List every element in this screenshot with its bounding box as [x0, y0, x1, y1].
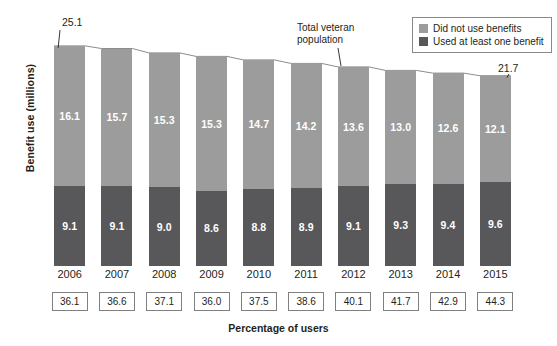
legend-label: Used at least one benefit — [433, 36, 544, 47]
x-tick-label-2014: 2014 — [428, 268, 468, 280]
bar-2010[interactable]: 14.78.8 — [243, 60, 274, 266]
bar-2014[interactable]: 12.69.4 — [433, 73, 464, 266]
bar-segment-did-not-use-benefits[interactable]: 13.0 — [385, 70, 416, 184]
bar-segment-used-at-least-one-benefit[interactable]: 9.3 — [385, 184, 416, 266]
x-axis-title: Percentage of users — [0, 322, 557, 334]
x-tick-label-2008: 2008 — [144, 268, 184, 280]
bar-segment-used-at-least-one-benefit[interactable]: 9.1 — [338, 186, 369, 266]
bar-segment-used-at-least-one-benefit[interactable]: 9.1 — [54, 186, 85, 266]
percentage-box-2012: 40.1 — [335, 292, 371, 311]
bar-segment-did-not-use-benefits[interactable]: 15.3 — [149, 53, 180, 187]
bar-segment-did-not-use-benefits[interactable]: 14.2 — [291, 63, 322, 188]
bar-segment-value-label: 15.3 — [149, 114, 180, 126]
percentage-box-2007: 36.6 — [99, 292, 135, 311]
bar-segment-used-at-least-one-benefit[interactable]: 8.9 — [291, 188, 322, 266]
bar-segment-used-at-least-one-benefit[interactable]: 9.6 — [480, 182, 511, 266]
x-tick-label-2007: 2007 — [97, 268, 137, 280]
bar-segment-did-not-use-benefits[interactable]: 12.1 — [480, 76, 511, 182]
x-tick-label-2013: 2013 — [381, 268, 421, 280]
plot-area: 16.19.115.79.115.39.015.38.614.78.814.28… — [46, 38, 519, 266]
y-axis-title: Benefit use (millions) — [24, 33, 36, 203]
bar-segment-used-at-least-one-benefit[interactable]: 8.6 — [196, 191, 227, 266]
bar-segment-value-label: 16.1 — [54, 110, 85, 122]
callout-first-total: 25.1 — [62, 16, 82, 28]
x-tick-label-2010: 2010 — [239, 268, 279, 280]
bar-segment-value-label: 9.4 — [433, 219, 464, 231]
bar-segment-did-not-use-benefits[interactable]: 14.7 — [243, 60, 274, 189]
bar-segment-value-label: 13.6 — [338, 121, 369, 133]
bar-segment-did-not-use-benefits[interactable]: 15.3 — [196, 56, 227, 190]
percentage-of-users-row: 36.136.637.136.037.538.640.141.742.944.3 — [46, 292, 519, 314]
legend-swatch-icon — [419, 24, 428, 33]
bar-2012[interactable]: 13.69.1 — [338, 67, 369, 266]
legend-item-did-not-use-benefits[interactable]: Did not use benefits — [419, 22, 544, 35]
bar-segment-value-label: 9.1 — [54, 220, 85, 232]
x-tick-label-2012: 2012 — [333, 268, 373, 280]
percentage-box-2013: 41.7 — [383, 292, 419, 311]
bar-segment-value-label: 12.1 — [480, 123, 511, 135]
bar-segment-value-label: 15.3 — [196, 118, 227, 130]
percentage-box-2010: 37.5 — [241, 292, 277, 311]
percentage-box-2008: 37.1 — [146, 292, 182, 311]
bar-segment-value-label: 9.1 — [338, 220, 369, 232]
legend-item-used-at-least-one-benefit[interactable]: Used at least one benefit — [419, 35, 544, 48]
x-axis-tick-labels: 2006200720082009201020112012201320142015 — [46, 268, 519, 288]
legend-label: Did not use benefits — [433, 23, 521, 34]
x-tick-label-2015: 2015 — [475, 268, 515, 280]
bar-segment-value-label: 15.7 — [101, 111, 132, 123]
bar-segment-value-label: 12.6 — [433, 122, 464, 134]
bar-segment-value-label: 8.6 — [196, 222, 227, 234]
bar-2011[interactable]: 14.28.9 — [291, 63, 322, 266]
bar-segment-used-at-least-one-benefit[interactable]: 8.8 — [243, 189, 274, 266]
bar-segment-used-at-least-one-benefit[interactable]: 9.0 — [149, 187, 180, 266]
percentage-box-2014: 42.9 — [430, 292, 466, 311]
bar-segment-value-label: 13.0 — [385, 121, 416, 133]
x-tick-label-2009: 2009 — [192, 268, 232, 280]
bar-segment-used-at-least-one-benefit[interactable]: 9.4 — [433, 184, 464, 266]
callout-last-total: 21.7 — [498, 62, 518, 74]
bar-2015[interactable]: 12.19.6 — [480, 76, 511, 266]
bar-segment-value-label: 8.8 — [243, 221, 274, 233]
trendline-annotation-line2: population — [297, 34, 354, 46]
bar-2009[interactable]: 15.38.6 — [196, 56, 227, 266]
bar-segment-value-label: 9.3 — [385, 219, 416, 231]
bar-segment-used-at-least-one-benefit[interactable]: 9.1 — [101, 186, 132, 266]
bar-segment-value-label: 9.6 — [480, 218, 511, 230]
percentage-box-2009: 36.0 — [194, 292, 230, 311]
bar-segment-did-not-use-benefits[interactable]: 16.1 — [54, 46, 85, 186]
percentage-box-2006: 36.1 — [52, 292, 88, 311]
bar-2007[interactable]: 15.79.1 — [101, 49, 132, 266]
bar-2008[interactable]: 15.39.0 — [149, 53, 180, 266]
percentage-box-2015: 44.3 — [477, 292, 513, 311]
trendline-annotation: Total veteran population — [297, 22, 354, 46]
bar-segment-did-not-use-benefits[interactable]: 15.7 — [101, 49, 132, 187]
legend: Did not use benefits Used at least one b… — [412, 17, 552, 53]
x-tick-label-2006: 2006 — [50, 268, 90, 280]
bar-segment-value-label: 9.1 — [101, 220, 132, 232]
bar-segment-value-label: 9.0 — [149, 221, 180, 233]
bar-2006[interactable]: 16.19.1 — [54, 46, 85, 266]
trendline-annotation-line1: Total veteran — [297, 22, 354, 34]
x-tick-label-2011: 2011 — [286, 268, 326, 280]
legend-swatch-icon — [419, 37, 428, 46]
percentage-box-2011: 38.6 — [288, 292, 324, 311]
bar-segment-value-label: 8.9 — [291, 221, 322, 233]
bar-segment-value-label: 14.7 — [243, 118, 274, 130]
bar-segment-value-label: 14.2 — [291, 120, 322, 132]
bar-2013[interactable]: 13.09.3 — [385, 70, 416, 266]
bar-segment-did-not-use-benefits[interactable]: 13.6 — [338, 67, 369, 186]
stacked-bar-chart: Benefit use (millions) 16.19.115.79.115.… — [0, 0, 557, 346]
bar-segment-did-not-use-benefits[interactable]: 12.6 — [433, 73, 464, 183]
